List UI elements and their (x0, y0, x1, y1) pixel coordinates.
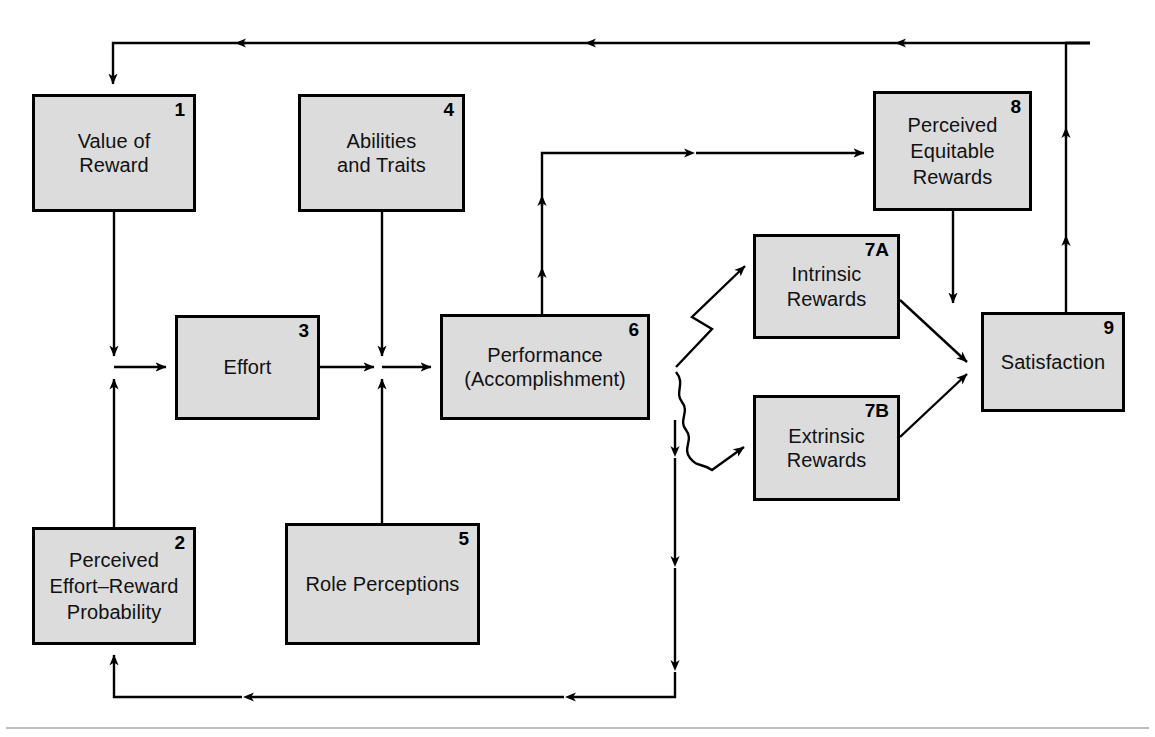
node-number: 7B (865, 401, 889, 420)
edge-6-to-7a (676, 266, 745, 367)
node-label: Satisfaction (995, 350, 1112, 374)
node-number: 8 (1010, 97, 1021, 116)
node-label: Abilities and Traits (331, 129, 432, 178)
node-label: Perceived Equitable Rewards (902, 112, 1004, 190)
edge-6-to-2-seg-f (114, 655, 242, 697)
node-number: 1 (174, 100, 185, 119)
node-label: Role Perceptions (300, 572, 466, 596)
node-label: Performance (Accomplishment) (458, 343, 632, 392)
node-number: 4 (443, 100, 454, 119)
edge-6-to-2-seg-d (570, 672, 675, 697)
node-3-effort[interactable]: 3 Effort (175, 315, 320, 420)
node-9-satisfaction[interactable]: 9 Satisfaction (981, 312, 1125, 412)
node-number: 6 (628, 320, 639, 339)
edge-9-to-1-seg-c (1066, 43, 1090, 138)
bottom-divider (6, 727, 1149, 729)
node-number: 7A (865, 240, 889, 259)
edge-6-to-8-elbow (542, 153, 690, 206)
diagram-canvas: 1 Value of Reward 4 Abilities and Traits… (0, 0, 1155, 737)
node-number: 2 (174, 533, 185, 552)
node-2-perceived-effort-reward-probability[interactable]: 2 Perceived Effort–Reward Probability (32, 527, 196, 645)
node-number: 5 (458, 529, 469, 548)
node-7b-extrinsic-rewards[interactable]: 7B Extrinsic Rewards (753, 395, 900, 501)
node-label: Extrinsic Rewards (781, 424, 873, 473)
edge-9-to-1-seg-g (113, 43, 246, 84)
edge-7a-to-9 (900, 300, 967, 362)
node-label: Intrinsic Rewards (781, 262, 873, 311)
node-number: 9 (1103, 318, 1114, 337)
edge-7b-to-9 (900, 374, 967, 437)
node-4-abilities-and-traits[interactable]: 4 Abilities and Traits (298, 94, 465, 212)
node-5-role-perceptions[interactable]: 5 Role Perceptions (285, 523, 480, 645)
node-label: Effort (217, 355, 277, 379)
node-label: Value of Reward (72, 129, 157, 178)
node-8-perceived-equitable-rewards[interactable]: 8 Perceived Equitable Rewards (873, 91, 1032, 211)
node-6-performance[interactable]: 6 Performance (Accomplishment) (440, 314, 650, 420)
node-1-value-of-reward[interactable]: 1 Value of Reward (32, 94, 196, 212)
node-label: Perceived Effort–Reward Probability (44, 547, 185, 625)
edge-6-to-7b (676, 372, 744, 470)
node-7a-intrinsic-rewards[interactable]: 7A Intrinsic Rewards (753, 234, 900, 339)
node-number: 3 (298, 321, 309, 340)
